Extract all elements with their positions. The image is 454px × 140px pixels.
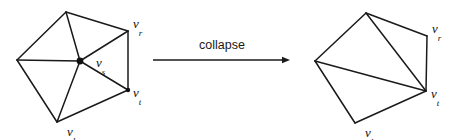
collapse-transition: collapse: [153, 38, 290, 63]
vertex-label-vt: vt: [431, 86, 440, 108]
vertex-label-vl: vl: [365, 125, 374, 140]
vertex-label-vr: vr: [432, 21, 442, 43]
vertex-label-vr: vr: [133, 16, 143, 38]
vertex-dot-vt: [126, 88, 130, 92]
vertex-label-vl: vl: [67, 124, 76, 140]
mesh-after-collapse: vrvtvl: [315, 13, 442, 140]
collapse-label: collapse: [199, 38, 245, 52]
collapse-arrow-head: [282, 57, 290, 63]
mesh-before-fill: [17, 12, 128, 122]
vertex-label-vt: vt: [133, 85, 142, 107]
edge-collapse-figure: vrvtvlvs collapse vrvtvl: [0, 0, 454, 140]
mesh-edge-vs-left: [17, 60, 80, 61]
mesh-edge-vr-vt: [426, 36, 427, 91]
vertex-dot-vs: [77, 58, 84, 65]
mesh-before-collapse: vrvtvlvs: [17, 12, 143, 140]
